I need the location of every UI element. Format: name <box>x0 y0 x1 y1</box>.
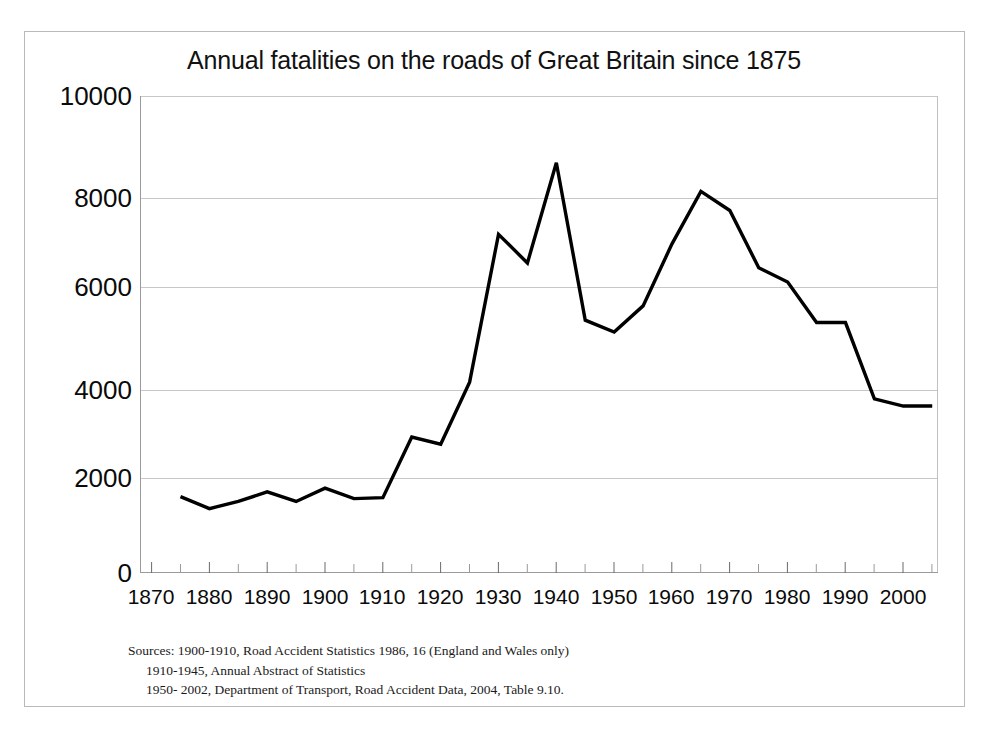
gridlines-horizontal <box>140 97 938 479</box>
chart-title: Annual fatalities on the roads of Great … <box>0 46 988 75</box>
sources-line-2: 1910-1945, Annual Abstract of Statistics <box>128 661 569 681</box>
sources-note: Sources: 1900-1910, Road Accident Statis… <box>128 641 569 700</box>
chart-page: Annual fatalities on the roads of Great … <box>0 0 988 741</box>
x-tick-marks <box>152 562 932 573</box>
sources-line-1: Sources: 1900-1910, Road Accident Statis… <box>128 641 569 661</box>
line-chart-svg <box>140 96 938 573</box>
sources-line-3: 1950- 2002, Department of Transport, Roa… <box>128 680 569 700</box>
data-series-line <box>180 163 932 509</box>
plot-area <box>140 96 938 573</box>
